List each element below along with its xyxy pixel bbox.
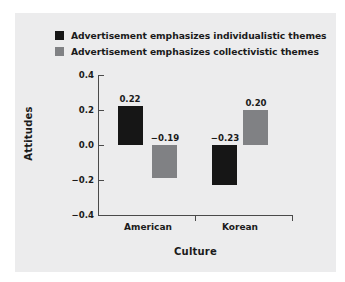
bar-korean-individualistic <box>212 145 237 185</box>
y-tick-label--0.2: −0.2 <box>66 175 94 185</box>
x-category-label-korean: Korean <box>200 222 280 232</box>
y-tick--0.2 <box>99 180 104 181</box>
bar-american-individualistic <box>118 106 143 145</box>
bar-korean-collectivistic <box>243 110 268 145</box>
bar-value-korean-individualistic: −0.23 <box>202 133 248 143</box>
x-tick-group-separator <box>195 216 196 221</box>
bar-value-american-collectivistic: −0.19 <box>142 133 188 143</box>
y-tick-0.0 <box>99 145 104 146</box>
x-category-label-american: American <box>108 222 188 232</box>
y-tick-label--0.4: −0.4 <box>66 210 94 220</box>
bar-american-collectivistic <box>152 145 177 178</box>
bar-value-korean-collectivistic: 0.20 <box>233 98 279 108</box>
y-tick-0.2 <box>99 110 104 111</box>
x-axis-title: Culture <box>98 246 293 257</box>
plot-area: 0.4 0.2 0.0 −0.2 −0.4 0.22 −0.19 −0.23 0… <box>0 0 345 282</box>
bar-value-american-individualistic: 0.22 <box>107 94 153 104</box>
figure: Advertisement emphasizes individualistic… <box>0 0 345 282</box>
x-tick-right-end <box>292 216 293 221</box>
y-axis-title: Attitudes <box>23 89 34 179</box>
y-tick-0.4 <box>99 75 104 76</box>
y-tick-label-0.2: 0.2 <box>66 105 94 115</box>
y-tick-label-0.0: 0.0 <box>66 140 94 150</box>
y-tick-label-0.4: 0.4 <box>66 70 94 80</box>
